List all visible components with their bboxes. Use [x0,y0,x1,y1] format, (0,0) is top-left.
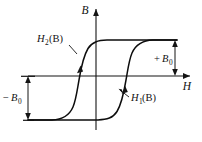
negative-saturation-arrow-down [25,113,31,120]
lower-branch-label: H 1 (B) [130,92,157,106]
positive-saturation-sign: + [154,53,160,64]
positive-saturation-subscript: 0 [169,58,173,67]
h-axis-label: H [182,80,192,92]
b-axis-arrowhead [93,9,99,16]
axis-group [28,9,190,130]
b-axis-label: B [81,4,88,16]
positive-saturation-measure [172,40,178,76]
hysteresis-diagram: B H H 2 (B) H 1 (B) + B 0 − B 0 [0,0,202,142]
h-axis-arrowhead [183,73,190,79]
lower-branch-label-argument: (B) [142,92,157,104]
positive-saturation-base: B [162,53,169,64]
lower-branch-leader-arrowhead [119,89,123,93]
negative-saturation-label: − B 0 [3,92,22,106]
negative-saturation-sign: − [3,92,9,103]
negative-saturation-arrow-up [25,76,31,83]
upper-branch-curve [28,40,177,120]
upper-branch-label-argument: (B) [49,33,64,45]
negative-saturation-measure [21,76,35,120]
curve-group [28,40,177,120]
negative-saturation-subscript: 0 [18,97,22,106]
upper-branch-leader [69,45,77,54]
positive-saturation-label: + B 0 [154,53,173,67]
negative-saturation-base: B [11,92,18,103]
upper-branch-label: H 2 (B) [36,33,64,47]
positive-saturation-arrow-up [172,40,178,47]
hysteresis-figure: B H H 2 (B) H 1 (B) + B 0 − B 0 [0,0,202,142]
positive-saturation-arrow-down [172,69,178,76]
lower-branch-curve [28,40,177,120]
